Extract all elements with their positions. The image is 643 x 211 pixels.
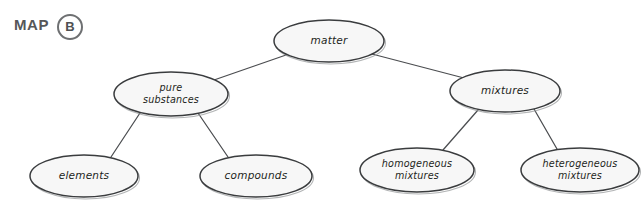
node-label: compounds	[225, 169, 288, 181]
node-label: elements	[59, 169, 110, 181]
node-elements[interactable]: elements	[30, 155, 140, 199]
edge-mixtures-to-heterogeneous-mixtures	[534, 109, 557, 149]
node-pure-substances[interactable]: puresubstances	[114, 72, 230, 118]
node-compounds[interactable]: compounds	[200, 155, 314, 199]
nodes-layer: matterpuresubstancesmixtureselementscomp…	[30, 20, 641, 199]
node-heterogeneous-mixtures[interactable]: heterogeneousmixtures	[521, 148, 641, 194]
node-label: substances	[143, 94, 199, 105]
node-label: heterogeneous	[543, 158, 618, 169]
edge-pure-substances-to-compounds	[198, 113, 228, 157]
edge-mixtures-to-homogeneous-mixtures	[443, 110, 478, 150]
concept-map-tree: matterpuresubstancesmixtureselementscomp…	[0, 0, 643, 211]
edge-pure-substances-to-elements	[111, 113, 140, 157]
node-label: homogeneous	[382, 158, 452, 169]
node-label: mixtures	[481, 84, 529, 96]
edge-matter-to-pure-substances	[214, 55, 286, 80]
edge-matter-to-mixtures	[372, 54, 464, 78]
node-mixtures[interactable]: mixtures	[450, 70, 562, 114]
node-homogeneous-mixtures[interactable]: homogeneousmixtures	[360, 148, 476, 194]
node-label: mixtures	[395, 170, 439, 181]
node-label: matter	[311, 34, 348, 46]
node-label: mixtures	[558, 170, 602, 181]
node-matter[interactable]: matter	[274, 20, 386, 64]
diagram-canvas: MAP B matterpuresubstancesmixtureselemen…	[0, 0, 643, 211]
node-label: pure	[159, 82, 183, 93]
